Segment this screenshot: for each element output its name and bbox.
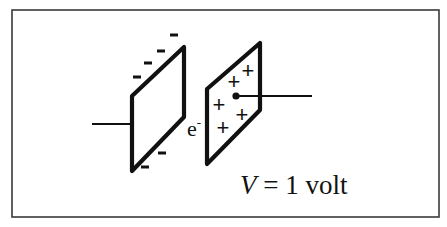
plus-sign: + [213,92,226,117]
capacitor-diagram: e- + + + + + V = 1 volt [0,0,447,227]
diagram-frame [12,10,439,217]
plus-sign: + [228,69,241,94]
voltage-label: V = 1 volt [240,170,348,200]
electron-label: e- [187,115,201,141]
plus-sign: + [236,102,249,127]
plus-sign: + [242,58,255,83]
positive-charges: + + + + + [213,58,255,140]
plus-sign: + [217,115,230,140]
